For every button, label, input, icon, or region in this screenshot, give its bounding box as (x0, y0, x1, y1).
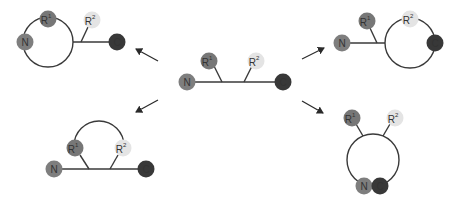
r1-node: R1 (201, 53, 218, 70)
r2-label: R (403, 15, 410, 26)
r1-bond (356, 124, 363, 136)
n-label: N (360, 181, 367, 192)
r2-node: R2 (402, 11, 419, 28)
c-terminus-node: C (427, 35, 444, 52)
r1-label: R (345, 114, 352, 125)
c-terminus-node: C (138, 161, 155, 178)
c-terminus-node: C (275, 74, 292, 91)
r2-bond (110, 155, 118, 169)
r2-label: R (249, 57, 256, 68)
arrow-to-top-left-icon (136, 49, 158, 61)
n-terminus-node: N (356, 178, 373, 195)
c-label: C (279, 77, 286, 88)
r1-node: R1 (359, 13, 376, 30)
c-label: C (431, 38, 438, 49)
ring-arc (74, 121, 124, 146)
c-terminus-node: C (372, 178, 389, 195)
panel-top-left-head-to-sidechain: N R1 R2 C (17, 11, 126, 68)
n-terminus-node: N (334, 35, 351, 52)
r1-node: R1 (40, 11, 57, 28)
arrow-to-bottom-left-icon (136, 100, 158, 112)
r1-label: R (360, 17, 367, 28)
r2-bond (81, 27, 88, 42)
panel-top-right-sidechain-to-tail: N R1 R2 C (334, 11, 444, 69)
r2-node: R2 (115, 140, 132, 157)
c-label: C (113, 37, 120, 48)
c-label: C (142, 164, 149, 175)
r1-label: R (41, 15, 48, 26)
r2-node: R2 (248, 53, 265, 70)
r2-node: R2 (84, 12, 101, 29)
arrow-to-bottom-right-icon (302, 101, 323, 113)
n-terminus-node: N (179, 74, 196, 91)
r1-label: R (68, 144, 75, 155)
panel-bottom-left-sidechain-to-sidechain: N R1 R2 C (46, 121, 155, 178)
cyclization-diagram: N R1 R2 C N R1 R2 (0, 0, 460, 201)
n-terminus-node: N (46, 161, 63, 178)
n-label: N (183, 77, 190, 88)
r1-bond (214, 66, 222, 82)
r1-bond (370, 28, 377, 43)
n-label: N (338, 38, 345, 49)
c-terminus-node: C (109, 34, 126, 51)
n-label: N (21, 37, 28, 48)
panel-bottom-right-head-to-tail: R1 R2 N C (344, 110, 404, 195)
panel-center-linear: N R1 R2 C (179, 53, 292, 91)
arrow-to-top-right-icon (302, 48, 324, 59)
r1-node: R1 (344, 110, 361, 127)
r2-label: R (116, 144, 123, 155)
n-terminus-node: N (17, 34, 34, 51)
r2-node: R2 (387, 110, 404, 127)
c-label: C (376, 181, 383, 192)
r2-bond (383, 124, 390, 136)
n-label: N (50, 164, 57, 175)
r1-bond (80, 155, 89, 169)
ring (347, 134, 399, 186)
r1-node: R1 (67, 140, 84, 157)
r2-label: R (85, 16, 92, 27)
r1-label: R (202, 57, 209, 68)
r2-bond (244, 66, 252, 82)
r2-label: R (388, 114, 395, 125)
